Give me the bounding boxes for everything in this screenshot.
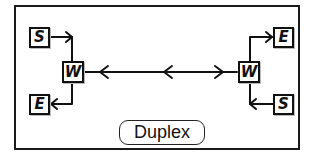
duplex-label: Duplex	[134, 122, 190, 143]
left-w-label: W	[65, 65, 82, 80]
left-sink-label: E	[34, 97, 44, 112]
left-source-node: S	[29, 27, 50, 48]
right-source-node: S	[273, 94, 294, 115]
right-sink-node: E	[273, 27, 294, 48]
left-source-label: S	[34, 30, 45, 45]
duplex-label-pill: Duplex	[119, 120, 205, 145]
right-w-node: W	[238, 61, 260, 83]
left-sink-node: E	[29, 94, 50, 115]
right-w-label: W	[241, 65, 258, 80]
right-source-label: S	[278, 97, 289, 112]
left-w-node: W	[62, 61, 84, 83]
right-sink-label: E	[278, 30, 288, 45]
